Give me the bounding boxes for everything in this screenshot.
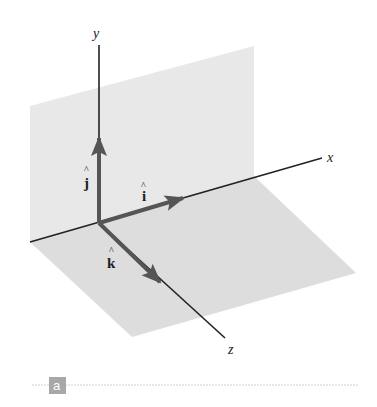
k-vector-label: k bbox=[107, 255, 116, 271]
j-vector-label: j bbox=[83, 175, 89, 191]
y-axis-label: y bbox=[91, 26, 100, 41]
x-axis-label: x bbox=[326, 150, 334, 165]
i-vector-label: i bbox=[142, 188, 146, 204]
caption-tag: a bbox=[53, 378, 61, 393]
j-hat: ^ bbox=[84, 164, 89, 175]
z-axis-label: z bbox=[227, 342, 234, 357]
unit-vector-diagram: y x z ^ j ^ i ^ k a bbox=[0, 0, 377, 407]
